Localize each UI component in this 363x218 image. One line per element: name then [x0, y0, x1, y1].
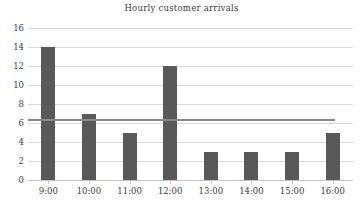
x-axis-tick-mark	[292, 180, 293, 184]
bar[interactable]	[244, 152, 258, 181]
x-axis-tick-label: 14:00	[239, 186, 264, 196]
gridline	[28, 180, 353, 181]
x-axis-tick-mark	[251, 180, 252, 184]
gridline	[28, 161, 353, 162]
y-axis-tick-label: 10	[0, 80, 24, 90]
y-axis-tick-label: 6	[0, 118, 24, 128]
bar[interactable]	[326, 133, 340, 181]
bar[interactable]	[163, 66, 177, 180]
x-axis-tick-mark	[130, 180, 131, 184]
y-axis-tick-label: 4	[0, 137, 24, 147]
y-axis-tick-label: 0	[0, 175, 24, 185]
gridline	[28, 85, 353, 86]
gridline	[28, 142, 353, 143]
x-axis-tick-label: 10:00	[77, 186, 102, 196]
chart-container: Hourly customer arrivals 0246810121416 9…	[0, 0, 363, 218]
y-axis-labels: 0246810121416	[0, 28, 24, 180]
x-axis-tick-mark	[48, 180, 49, 184]
x-axis-tick-label: 13:00	[199, 186, 224, 196]
y-axis-tick-label: 14	[0, 42, 24, 52]
x-axis-tick-mark	[211, 180, 212, 184]
y-axis-tick-label: 16	[0, 23, 24, 33]
x-axis-tick-label: 12:00	[158, 186, 183, 196]
gridline	[28, 47, 353, 48]
x-axis-tick-label: 9:00	[39, 186, 58, 196]
x-axis-tick-label: 15:00	[280, 186, 305, 196]
chart-title: Hourly customer arrivals	[0, 3, 363, 13]
x-axis-tick-label: 11:00	[117, 186, 142, 196]
y-axis-tick-label: 8	[0, 99, 24, 109]
bar[interactable]	[41, 47, 55, 180]
bar[interactable]	[285, 152, 299, 181]
gridline	[28, 28, 353, 29]
gridline	[28, 104, 353, 105]
x-axis-tick-mark	[170, 180, 171, 184]
bar[interactable]	[204, 152, 218, 181]
gridline	[28, 123, 353, 124]
x-axis-tick-label: 16:00	[320, 186, 345, 196]
plot-area	[28, 28, 353, 180]
x-axis-tick-mark	[333, 180, 334, 184]
x-axis-tick-mark	[89, 180, 90, 184]
bar[interactable]	[82, 114, 96, 181]
bar[interactable]	[123, 133, 137, 181]
gridline	[28, 66, 353, 67]
y-axis-tick-label: 12	[0, 61, 24, 71]
y-axis-tick-label: 2	[0, 156, 24, 166]
average-line	[28, 119, 335, 121]
